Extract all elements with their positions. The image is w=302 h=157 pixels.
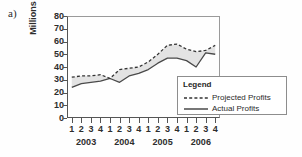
y-axis-tick-mark [63, 42, 67, 43]
x-axis-tick-mark [139, 118, 140, 123]
y-axis-tick-label: 40 [44, 63, 64, 72]
panel-label: a) [8, 7, 17, 19]
y-axis-tick-label: 10 [44, 101, 64, 110]
y-axis-tick-mark [63, 105, 67, 106]
y-axis-tick-label: 50 [44, 50, 64, 59]
y-axis-tick-label: 80 [44, 12, 64, 21]
y-axis-tick-mark [63, 93, 67, 94]
x-axis-tick-mark [215, 118, 216, 123]
y-axis-title: Millions of Dollars [26, 0, 40, 46]
legend-item-label: Actual Profits [209, 104, 259, 114]
y-axis-tick-label: 70 [44, 24, 64, 33]
y-axis-tick-label: 20 [44, 88, 64, 97]
legend-box: Legend Projected Profits Actual Profits [177, 76, 287, 115]
x-axis-tick-mark [91, 118, 92, 123]
x-axis-group-label: 2004 [104, 137, 144, 147]
x-axis-tick-mark [81, 118, 82, 123]
y-axis-tick-mark [63, 80, 67, 81]
x-axis-tick-mark [100, 118, 101, 123]
x-axis-tick-mark [129, 118, 130, 123]
y-axis-tick-label: 60 [44, 37, 64, 46]
x-axis-tick-mark [148, 118, 149, 123]
y-axis-tick-labels: 80706050403020100 [44, 11, 64, 123]
solid-line-icon [183, 104, 209, 114]
y-axis-tick-label: 0 [44, 114, 64, 123]
x-axis-tick-mark [196, 118, 197, 123]
x-axis-tick-mark [120, 118, 121, 123]
dashed-line-icon [183, 93, 209, 103]
x-axis-tick-mark [177, 118, 178, 123]
x-axis-tick-mark [187, 118, 188, 123]
x-axis-tick-mark [110, 118, 111, 123]
legend-item-projected-profits: Projected Profits [183, 92, 286, 103]
x-axis-tick-mark [158, 118, 159, 123]
y-axis-tick-mark [63, 67, 67, 68]
y-axis-tick-mark [63, 54, 67, 55]
y-axis-tick-label: 30 [44, 75, 64, 84]
x-axis-tick-mark [72, 118, 73, 123]
x-axis-group-label: 2003 [66, 137, 106, 147]
x-axis-tick-mark [167, 118, 168, 123]
legend-title: Legend [183, 80, 286, 89]
y-axis-tick-mark [63, 29, 67, 30]
legend-item-label: Projected Profits [209, 93, 271, 103]
x-axis-group-label: 2005 [143, 137, 183, 147]
legend-item-actual-profits: Actual Profits [183, 103, 286, 114]
y-axis-tick-mark [63, 118, 67, 119]
figure-panel-a: a) Millions of Dollars 80706050403020100… [0, 0, 302, 157]
y-axis-tick-mark [63, 16, 67, 17]
x-axis-group-label: 2006 [181, 137, 221, 147]
x-axis-tick-label: 4 [208, 124, 222, 134]
x-axis-tick-mark [206, 118, 207, 123]
